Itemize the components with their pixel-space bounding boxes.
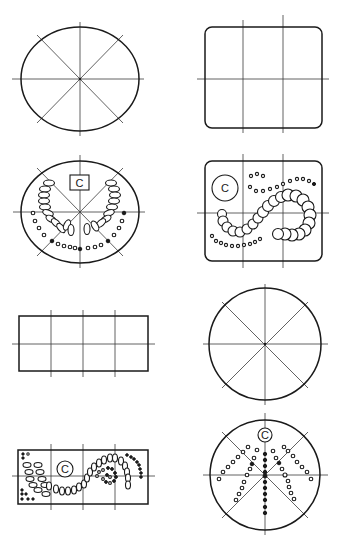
label-c: C — [76, 177, 84, 189]
label-c: C — [61, 463, 69, 475]
oval-cluster-left — [23, 463, 50, 497]
panel-2-rounded-rect — [197, 15, 329, 133]
label-c: C — [261, 429, 269, 441]
panel-4-rounded-rect-s-curve: C — [197, 154, 329, 268]
label-c-circle: C — [57, 461, 73, 477]
label-c-circle: C — [212, 175, 238, 201]
dot-row-bottom — [210, 234, 261, 247]
label-c-box: C — [70, 175, 89, 190]
label-c: C — [221, 182, 229, 194]
panel-1-ellipse — [12, 22, 144, 136]
dot-row-center — [263, 452, 267, 514]
panel-6-circle — [203, 284, 328, 405]
dot-spiral-inner — [96, 467, 118, 485]
panel-8-circle-radial: C — [203, 413, 328, 535]
label-c-circle: C — [258, 428, 272, 442]
panel-5-rectangle — [12, 310, 155, 377]
panel-3-ellipse-horseshoe: C — [13, 155, 145, 268]
diagram-canvas: C — [0, 0, 343, 537]
panel-7-rectangle-spiral: C — [12, 444, 155, 510]
dot-row-top — [248, 172, 315, 192]
oval-row-left — [39, 180, 75, 236]
